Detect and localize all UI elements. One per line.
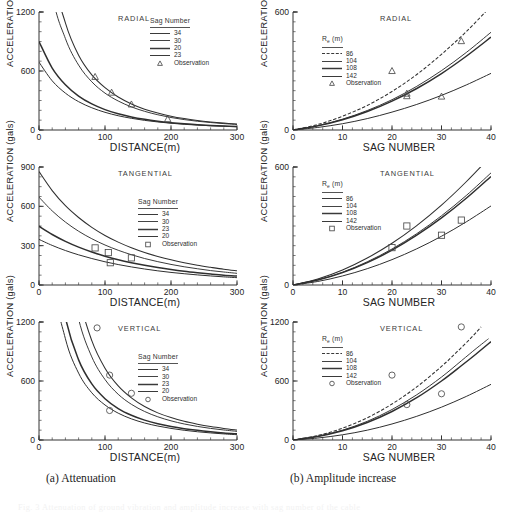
x-tick-label: 40 [486, 133, 496, 142]
legend-entry-observation: Observation [138, 240, 197, 247]
x-tick-label: 10 [338, 288, 348, 297]
figure-root: ACCELERATION (gals)DISTANCE(m)RADIAL0600… [0, 0, 507, 524]
legend-square-marker-icon [322, 225, 342, 232]
legend-line-swatch [322, 218, 342, 225]
legend-line-swatch [150, 37, 170, 44]
legend-triangle-marker-icon [322, 80, 342, 87]
legend-line-swatch [322, 73, 342, 80]
legend-entry-label: 108 [346, 365, 357, 372]
observation-marker [94, 325, 100, 331]
legend-entry-label: Observation [162, 241, 197, 248]
legend-line-swatch [138, 233, 158, 240]
legend-line-swatch [322, 358, 342, 365]
legend-entry-observation: Observation [138, 395, 197, 402]
legend-line-swatch [138, 218, 158, 225]
chart-legend: Re (m)86104108142Observation [322, 36, 381, 87]
legend-entry-observation: Observation [322, 380, 381, 387]
observation-marker [128, 390, 134, 396]
x-tick-label: 0 [291, 443, 296, 452]
y-tick-label: 600 [21, 377, 35, 386]
legend-title: Sag Number [138, 199, 178, 209]
subcaption-a: (a) Attenuation [46, 472, 116, 485]
chart-legend: Re (m)86104108142Observation [322, 336, 381, 387]
x-tick-label: 100 [98, 443, 112, 452]
legend-entry-label: Observation [346, 225, 381, 232]
legend-line-swatch [322, 350, 342, 357]
y-tick-label: 600 [275, 8, 289, 17]
x-tick-label: 20 [387, 443, 397, 452]
legend-line-swatch [322, 373, 342, 380]
y-tick-label: 0 [30, 436, 35, 445]
legend-entry-label: 34 [162, 211, 169, 218]
legend-line-swatch [138, 211, 158, 218]
legend-entry-label: 20 [162, 233, 169, 240]
x-tick-label: 30 [437, 288, 447, 297]
chart-panel-right-vertical: ACCELERATION (gals)SAG NUMBERVERTICAL060… [254, 312, 507, 467]
legend-circle-marker-icon [322, 380, 342, 387]
y-tick-label: 600 [21, 67, 35, 76]
legend-line-swatch [138, 388, 158, 395]
chart-legend: Sag Number34302320Observation [138, 199, 197, 248]
y-tick-label: 900 [21, 163, 35, 172]
legend-circle-marker-icon [138, 396, 158, 403]
legend-line-swatch [138, 381, 158, 388]
x-tick-label: 100 [98, 288, 112, 297]
x-tick-label: 20 [387, 288, 397, 297]
y-tick-label: 600 [275, 377, 289, 386]
legend-line-swatch [322, 195, 342, 202]
legend-entry-label: 34 [162, 366, 169, 373]
legend-entry-label: 34 [174, 30, 181, 37]
chart-legend: Sag Number34302320Observation [138, 354, 197, 403]
x-tick-label: 200 [164, 133, 178, 142]
legend-line-swatch [322, 50, 342, 57]
legend-square-marker-icon [138, 241, 158, 248]
observation-marker [438, 391, 444, 397]
legend-entry-observation: Observation [322, 80, 381, 87]
legend-title: Re (m) [322, 36, 343, 48]
legend-line-swatch [322, 65, 342, 72]
y-tick-label: 600 [275, 163, 289, 172]
legend-entry-label: 108 [346, 65, 357, 72]
y-tick-label: 300 [21, 241, 35, 250]
y-tick-label: 0 [284, 436, 289, 445]
column-amplitude-increase: ACCELERATION (gals)SAG NUMBERRADIAL06000… [254, 0, 507, 466]
legend-line-swatch [322, 365, 342, 372]
x-axis-title: DISTANCE(m) [40, 451, 250, 463]
x-tick-label: 20 [387, 133, 397, 142]
legend-line-swatch [150, 52, 170, 59]
x-tick-label: 10 [338, 443, 348, 452]
legend-line-swatch [138, 366, 158, 373]
legend-title: Re (m) [322, 181, 343, 193]
legend-entry-label: 23 [174, 52, 181, 59]
observation-marker [105, 250, 111, 256]
legend-entry-label: Observation [346, 80, 381, 87]
observation-marker [389, 68, 396, 74]
x-tick-label: 30 [437, 133, 447, 142]
legend-line-swatch [322, 58, 342, 65]
x-tick-label: 100 [98, 133, 112, 142]
legend-entry-label: Observation [346, 380, 381, 387]
legend-title: Sag Number [150, 18, 190, 28]
subcaption-b: (b) Amplitude increase [290, 472, 396, 485]
observation-marker [92, 245, 98, 251]
chart-legend: Re (m)86104108142Observation [322, 181, 381, 232]
y-tick-label: 1200 [16, 318, 35, 327]
legend-line-swatch [138, 226, 158, 233]
observation-marker [404, 223, 410, 229]
legend-line-swatch [322, 210, 342, 217]
x-tick-label: 10 [338, 133, 348, 142]
legend-entry-label: 20 [162, 388, 169, 395]
observation-marker [458, 217, 464, 223]
legend-line-swatch [322, 203, 342, 210]
y-tick-label: 1200 [270, 318, 289, 327]
observation-marker [389, 372, 395, 378]
observation-marker [458, 324, 464, 330]
legend-line-swatch [150, 45, 170, 52]
legend-line-swatch [138, 373, 158, 380]
legend-triangle-marker-icon [150, 60, 170, 67]
x-tick-label: 300 [230, 443, 244, 452]
x-tick-label: 200 [164, 288, 178, 297]
legend-line-swatch [150, 30, 170, 37]
legend-title: Sag Number [138, 354, 178, 364]
legend-entry-label: 108 [346, 210, 357, 217]
